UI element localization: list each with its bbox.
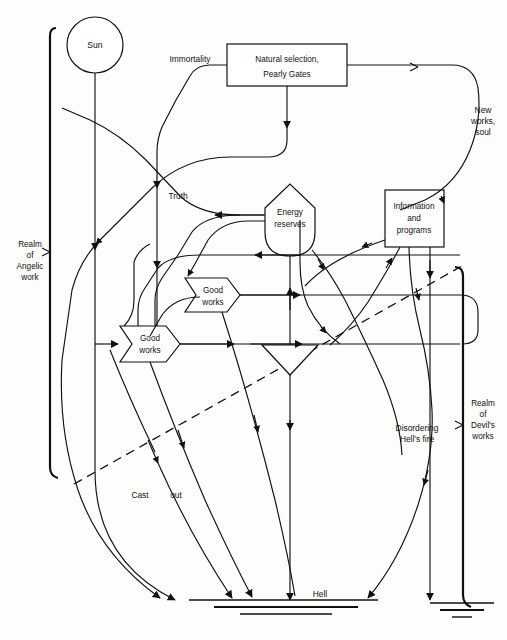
angelic-realm-label-line1: Realm: [18, 240, 42, 249]
good-works-upper-label-line2: works: [201, 298, 223, 307]
good-works-lower-workgate: [120, 326, 180, 362]
devils-realm-label-line3: Devil's: [471, 421, 495, 430]
energy-reserves-label-line2: reserves: [274, 220, 305, 229]
angelic-realm-label-line3: Angelic: [17, 262, 44, 271]
good-works-lower-label-line1: Good: [140, 334, 160, 343]
disordering-hellfire-label-line1: Disordering: [396, 423, 439, 433]
flow-immortality-in: [176, 65, 227, 100]
good-works-upper-label-line1: Good: [203, 286, 223, 295]
devils-realm-label-line1: Realm: [471, 399, 495, 408]
flow-natsel-to-hell: [61, 360, 160, 598]
flow-info-left-in: [305, 240, 385, 286]
flow-cast-out-arrow: [148, 440, 158, 463]
angelic-realm-label-line4: work: [20, 273, 39, 282]
new-works-soul-label-line2: works,: [470, 116, 495, 126]
realm-divider-dashed-line: [74, 266, 462, 484]
angelic-realm-label-line2: of: [27, 251, 35, 260]
natural-selection-label-line1: Natural selection,: [255, 55, 318, 64]
flow-info-curve-arrow2: [424, 470, 428, 485]
flow-energy-left-lower: [196, 221, 265, 262]
flow-energy-right-down: [312, 250, 402, 455]
flow-energy-left-down: [155, 255, 178, 326]
hell-ground-symbol: [189, 600, 378, 614]
good-works-lower-label-line2: works: [138, 346, 160, 355]
information-label-line3: programs: [397, 226, 432, 235]
truth-label: Truth: [168, 191, 188, 201]
new-works-soul-label-line1: New: [475, 105, 493, 115]
flow-small-left-return-down: [124, 262, 134, 326]
flow-natsel-right-arrowhead: [410, 63, 418, 71]
flow-energy-left-lower-arrow: [188, 262, 196, 276]
energy-systems-diagram: Sun Natural selection, Pearly Gates Info…: [0, 0, 507, 640]
information-label-line2: and: [407, 214, 421, 223]
devils-ground-symbol: [430, 603, 494, 617]
immortality-label: Immortality: [170, 54, 212, 64]
flow-up-to-energy-arrow1: [321, 327, 326, 333]
flow-upper-left-arc: [62, 108, 240, 215]
natural-selection-box: [227, 44, 347, 86]
angelic-realm-bracket: [42, 28, 58, 478]
flow-natsel-left-arc: [62, 128, 287, 360]
devils-realm-label-line2: of: [480, 410, 488, 419]
flow-natsel-arrow-mid: [96, 240, 100, 244]
flow-left-rail-down: [138, 288, 145, 326]
flow-small-left-return: [134, 244, 150, 262]
devils-realm-bracket: [455, 267, 471, 607]
devils-realm-label-line4: works: [471, 432, 493, 441]
flow-sun-to-hell: [95, 250, 175, 600]
new-works-soul-label-line3: soul: [475, 127, 491, 137]
disordering-hellfire-label-line2: Hell's fire: [400, 434, 435, 444]
energy-reserves-label-line1: Energy: [277, 208, 304, 217]
hell-label: Hell: [313, 589, 328, 599]
flow-cast-out-to-hell: [158, 463, 232, 598]
cast-out-label-part2: out: [170, 490, 182, 500]
diagram-canvas: Sun Natural selection, Pearly Gates Info…: [0, 0, 507, 640]
information-label-line1: Information: [394, 202, 435, 211]
sun-label: Sun: [87, 40, 103, 50]
heat-sink-triangle: [262, 345, 318, 375]
natural-selection-label-line2: Pearly Gates: [263, 70, 310, 79]
flow-gw-lower-arrow: [178, 430, 184, 448]
flow-cast-out-upper: [110, 350, 155, 452]
flow-right-big-loop: [400, 65, 479, 210]
cast-out-label-part1: Cast: [131, 490, 149, 500]
